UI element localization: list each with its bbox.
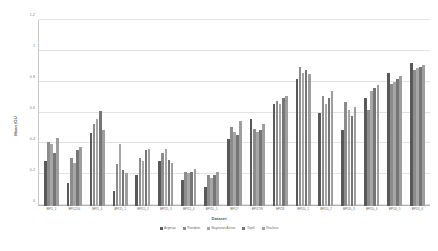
x-axis-tick-label: BPI20_6 bbox=[406, 207, 429, 211]
x-axis-tick-label: BPI20_4 bbox=[360, 207, 383, 211]
x-axis-tick-label: BPI20_5 bbox=[383, 207, 406, 211]
bar-group bbox=[246, 20, 269, 206]
legend-item[interactable]: Bayesian Active bbox=[207, 226, 235, 230]
x-axis-tick-label: BPI17W bbox=[246, 207, 269, 211]
bar-group bbox=[86, 20, 109, 206]
x-axis-tick-label: BPI1_1 bbox=[40, 207, 63, 211]
x-axis-tick-label: BPI15_5 bbox=[200, 207, 223, 211]
bar-group bbox=[132, 20, 155, 206]
chart-legend: ArgmaxRandomBayesian ActiveTopKNucleus bbox=[0, 226, 438, 230]
x-axis-tick-labels: BPI1_1BPI1234BPI1_4BPI15_1BPI15_2BPI15_3… bbox=[39, 207, 430, 211]
x-axis-tick-label: BPI20_2 bbox=[315, 207, 338, 211]
legend-item[interactable]: Argmax bbox=[160, 226, 176, 230]
bar-group bbox=[177, 20, 200, 206]
y-axis-tick-label: 0.2 bbox=[30, 168, 35, 172]
x-axis-tick-label: BPI15_1 bbox=[109, 207, 132, 211]
bar bbox=[331, 91, 334, 206]
bar-group bbox=[63, 20, 86, 206]
legend-swatch-icon bbox=[242, 227, 245, 230]
x-axis-tick-label: BPI1234 bbox=[63, 207, 86, 211]
bar-group bbox=[200, 20, 223, 206]
bar bbox=[79, 147, 82, 206]
bar bbox=[377, 85, 380, 206]
legend-label: Random bbox=[187, 226, 200, 230]
bar bbox=[308, 74, 311, 206]
legend-item[interactable]: Nucleus bbox=[262, 226, 279, 230]
bar bbox=[125, 173, 128, 206]
y-axis-title: Mean IOU bbox=[13, 116, 18, 135]
legend-swatch-icon bbox=[160, 227, 163, 230]
legend-swatch-icon bbox=[207, 227, 210, 230]
bar-chart: Mean IOU 00.20.40.60.811.2 BPI1_1BPI1234… bbox=[0, 0, 438, 251]
bar bbox=[148, 149, 151, 206]
bar-group bbox=[337, 20, 360, 206]
bar-group bbox=[315, 20, 338, 206]
x-axis-title: Dataset bbox=[0, 216, 438, 221]
y-axis-tick-label: 0 bbox=[33, 199, 35, 203]
bar bbox=[171, 163, 174, 206]
legend-item[interactable]: TopK bbox=[242, 226, 254, 230]
x-axis-tick-label: BPI1_4 bbox=[86, 207, 109, 211]
y-axis-tick-label: 1 bbox=[33, 44, 35, 48]
bar bbox=[285, 96, 288, 206]
x-axis-tick-label: BPI15_3 bbox=[154, 207, 177, 211]
y-axis-tick-label: 0.6 bbox=[30, 106, 35, 110]
legend-label: TopK bbox=[247, 226, 255, 230]
bar-group bbox=[40, 20, 63, 206]
bar bbox=[354, 107, 357, 206]
bar bbox=[194, 169, 197, 206]
y-axis-tick-label: 0.8 bbox=[30, 75, 35, 79]
bars-layer bbox=[39, 20, 430, 206]
legend-label: Nucleus bbox=[266, 226, 278, 230]
y-axis-tick-label: 0.4 bbox=[30, 137, 35, 141]
bar-group bbox=[109, 20, 132, 206]
legend-swatch-icon bbox=[183, 227, 186, 230]
bar-group bbox=[292, 20, 315, 206]
bar bbox=[56, 138, 59, 206]
bar bbox=[422, 65, 425, 206]
bar bbox=[102, 130, 105, 206]
y-axis-tick-label: 1.2 bbox=[30, 13, 35, 17]
x-axis-tick-label: BPI15_2 bbox=[132, 207, 155, 211]
x-axis-tick-label: BPI20_1 bbox=[292, 207, 315, 211]
bar-group bbox=[383, 20, 406, 206]
x-axis-tick-label: BPI17 bbox=[223, 207, 246, 211]
bar-group bbox=[406, 20, 429, 206]
bar-group bbox=[269, 20, 292, 206]
x-axis-tick-label: BPI15_4 bbox=[177, 207, 200, 211]
x-axis-tick-label: BPI20_3 bbox=[337, 207, 360, 211]
bar bbox=[399, 76, 402, 206]
x-axis-tick-label: BPI23 bbox=[269, 207, 292, 211]
bar bbox=[239, 121, 242, 206]
legend-label: Bayesian Active bbox=[212, 226, 236, 230]
legend-swatch-icon bbox=[262, 227, 265, 230]
bar-group bbox=[223, 20, 246, 206]
bar-group bbox=[360, 20, 383, 206]
bar bbox=[262, 124, 265, 206]
legend-item[interactable]: Random bbox=[183, 226, 200, 230]
legend-label: Argmax bbox=[164, 226, 176, 230]
bar bbox=[216, 172, 219, 206]
bar-group bbox=[154, 20, 177, 206]
